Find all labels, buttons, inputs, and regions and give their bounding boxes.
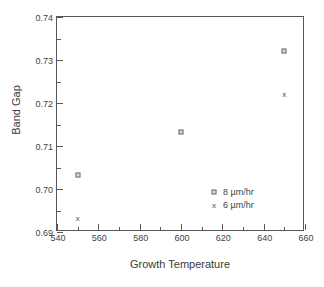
y-tick-label: 0.74 bbox=[35, 13, 53, 23]
x-tick-minor bbox=[284, 227, 285, 231]
y-tick-major: 0.72 bbox=[57, 103, 63, 104]
x-axis-title: Growth Temperature bbox=[56, 258, 304, 270]
y-tick-minor bbox=[57, 82, 61, 83]
legend-item: x6 µm/hr bbox=[207, 198, 254, 211]
x-tick-minor bbox=[119, 227, 120, 231]
x-tick-label: 540 bbox=[50, 233, 65, 243]
y-tick-major: 0.73 bbox=[57, 60, 63, 61]
legend-marker: x bbox=[207, 198, 221, 211]
y-tick-major: 0.71 bbox=[57, 146, 63, 147]
y-tick-label: 0.71 bbox=[35, 142, 53, 152]
x-tick-major: 580 bbox=[140, 224, 141, 230]
square-marker-icon bbox=[212, 189, 217, 194]
legend-label: 6 µm/hr bbox=[221, 200, 254, 210]
x-tick-minor bbox=[202, 227, 203, 231]
cross-marker-icon: x bbox=[211, 201, 218, 208]
y-tick-label: 0.73 bbox=[35, 56, 53, 66]
y-tick-major: 0.70 bbox=[57, 189, 63, 190]
square-marker-icon bbox=[75, 173, 80, 178]
x-tick-major: 540 bbox=[57, 224, 58, 230]
x-tick-label: 640 bbox=[257, 233, 272, 243]
legend-marker bbox=[207, 185, 221, 198]
legend-label: 8 µm/hr bbox=[221, 187, 254, 197]
y-tick-major: 0.74 bbox=[57, 17, 63, 18]
square-marker-icon bbox=[179, 129, 184, 134]
x-tick-minor bbox=[160, 227, 161, 231]
x-tick-label: 660 bbox=[298, 233, 313, 243]
cross-marker-icon: x bbox=[281, 90, 288, 97]
y-axis-title: Band Gap bbox=[10, 50, 22, 170]
y-tick-minor bbox=[57, 211, 61, 212]
x-tick-major: 640 bbox=[264, 224, 265, 230]
y-tick-label: 0.70 bbox=[35, 185, 53, 195]
square-marker-icon bbox=[282, 48, 287, 53]
x-tick-label: 560 bbox=[92, 233, 107, 243]
x-tick-label: 600 bbox=[174, 233, 189, 243]
cross-marker-icon: x bbox=[74, 215, 81, 222]
legend-item: 8 µm/hr bbox=[207, 185, 254, 198]
x-tick-label: 580 bbox=[133, 233, 148, 243]
y-tick-minor bbox=[57, 168, 61, 169]
x-tick-major: 620 bbox=[222, 224, 223, 230]
plot-area: 0.690.700.710.720.730.74 540560580600620… bbox=[56, 16, 304, 231]
x-tick-minor bbox=[243, 227, 244, 231]
x-tick-label: 620 bbox=[216, 233, 231, 243]
x-tick-major: 660 bbox=[305, 224, 306, 230]
y-tick-minor bbox=[57, 39, 61, 40]
chart-legend: 8 µm/hrx6 µm/hr bbox=[207, 185, 254, 211]
scatter-chart-figure: 0.690.700.710.720.730.74 540560580600620… bbox=[0, 0, 324, 287]
y-tick-label: 0.72 bbox=[35, 99, 53, 109]
y-tick-minor bbox=[57, 125, 61, 126]
x-tick-major: 600 bbox=[181, 224, 182, 230]
x-tick-major: 560 bbox=[98, 224, 99, 230]
x-tick-minor bbox=[78, 227, 79, 231]
